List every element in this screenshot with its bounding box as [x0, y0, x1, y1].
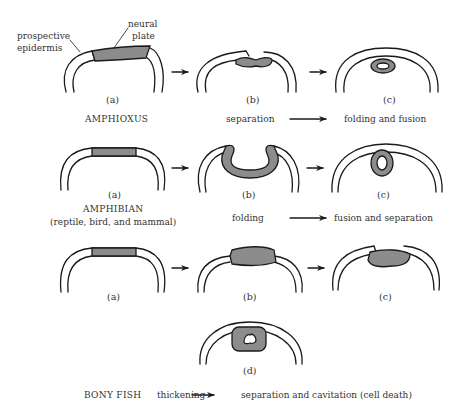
organism-label: AMPHIBIAN	[83, 205, 143, 214]
panel-label: (a)	[106, 95, 119, 105]
amphibian-panel-c	[332, 144, 442, 192]
bony-fish-panel-b	[198, 247, 302, 292]
neural-plate-label-2: plate	[132, 32, 155, 41]
neural-plate	[236, 58, 272, 67]
bony-fish-panel-a	[61, 248, 165, 292]
process-from-label: separation	[226, 115, 274, 124]
bony-fish-panel-d	[200, 322, 302, 364]
neural-plate	[92, 46, 150, 61]
panel-label: (b)	[242, 190, 256, 200]
neural-plate	[92, 248, 136, 256]
neural-plate	[222, 145, 279, 178]
bony-fish-panel-c	[333, 246, 440, 290]
amphioxus-panel-c	[336, 48, 438, 92]
process-from-label: folding	[232, 214, 264, 223]
neurulation-diagram	[0, 0, 457, 417]
process-to-label: folding and fusion	[344, 115, 426, 124]
process-to-label: separation and cavitation (cell death)	[241, 391, 412, 400]
organism-label: BONY FISH	[84, 391, 141, 400]
neural-plate-label: neural	[128, 20, 157, 29]
neural-plate	[92, 148, 136, 156]
organism-sublabel: (reptile, bird, and mammal)	[50, 218, 176, 227]
panel-label: (d)	[243, 366, 257, 376]
organism-label: AMPHIOXUS	[85, 115, 148, 124]
neural-keel	[368, 250, 410, 267]
amphibian-panel-a	[61, 148, 165, 190]
prospective-epidermis-label-2: epidermis	[17, 44, 62, 53]
prospective-epidermis-label: prospective	[17, 32, 70, 41]
panel-label: (b)	[243, 292, 257, 302]
neural-keel	[230, 247, 276, 265]
amphibian-panel-b	[198, 145, 299, 192]
panel-label: (a)	[107, 292, 120, 302]
panel-label: (c)	[383, 95, 396, 105]
panel-label: (b)	[246, 95, 260, 105]
panel-label: (c)	[377, 190, 390, 200]
process-from-label: thickening	[157, 391, 205, 400]
process-to-label: fusion and separation	[334, 214, 433, 223]
amphioxus-panel-b	[197, 51, 296, 92]
panel-label: (c)	[379, 292, 392, 302]
panel-label: (a)	[108, 190, 121, 200]
